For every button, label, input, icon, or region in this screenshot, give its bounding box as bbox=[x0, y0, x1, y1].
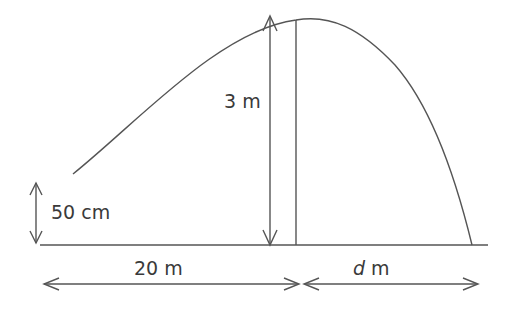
max-height-arrow bbox=[263, 16, 277, 245]
horizontal-after-peak-label: d m bbox=[353, 257, 390, 279]
trajectory-diagram: 50 cm 3 m 20 m d m bbox=[0, 0, 514, 312]
distance-unit: m bbox=[365, 257, 390, 279]
horizontal-to-peak-label: 20 m bbox=[134, 257, 183, 279]
distance-variable: d bbox=[353, 257, 366, 279]
horizontal-after-peak-arrow bbox=[304, 278, 478, 290]
horizontal-to-peak-arrow bbox=[44, 278, 299, 290]
launch-height-label: 50 cm bbox=[51, 201, 110, 223]
launch-height-arrow bbox=[30, 183, 42, 243]
max-height-label: 3 m bbox=[224, 90, 261, 112]
trajectory-curve bbox=[73, 19, 472, 245]
